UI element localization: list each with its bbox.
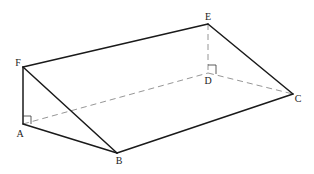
right-angle-marker-D — [208, 65, 216, 74]
vertex-label-C: C — [295, 93, 302, 104]
edge-AD — [23, 73, 208, 124]
vertex-label-E: E — [205, 11, 211, 22]
vertex-label-B: B — [116, 155, 123, 166]
edge-FE — [23, 24, 208, 67]
prism-diagram: F A B E D C — [0, 0, 314, 174]
vertex-label-D: D — [204, 75, 211, 86]
edge-BC — [117, 94, 293, 153]
vertex-label-F: F — [15, 57, 21, 68]
edge-FB — [23, 67, 117, 153]
edge-AB — [23, 124, 117, 153]
vertex-label-A: A — [16, 128, 24, 139]
